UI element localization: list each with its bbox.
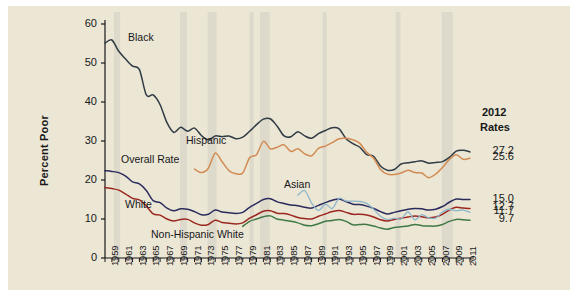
x-tick-label: 1971 [192, 246, 203, 266]
series-label-black: Black [128, 31, 154, 43]
x-tick-label: 1977 [233, 246, 244, 266]
x-tick-label: 1981 [261, 246, 272, 266]
series-label-hispanic: Hispanic [186, 134, 226, 146]
x-tick-label: 2005 [426, 246, 437, 266]
x-tick-label: 2001 [398, 246, 409, 266]
x-tick-label: 1995 [357, 246, 368, 266]
x-tick-label: 1979 [247, 246, 258, 266]
x-tick-label: 1967 [164, 246, 175, 266]
x-tick-label: 1965 [150, 246, 161, 266]
x-tick-label: 1985 [288, 246, 299, 266]
y-tick-label: 10 [65, 212, 97, 224]
x-tick-label: 1999 [384, 246, 395, 266]
y-tick-label: 20 [65, 173, 97, 185]
x-tick-label: 1983 [274, 246, 285, 266]
end-block-heading-year: 2012 [482, 106, 506, 118]
x-tick-label: 1975 [219, 246, 230, 266]
y-tick-label: 40 [65, 95, 97, 107]
x-tick-label: 2007 [440, 246, 451, 266]
y-tick-label: 50 [65, 56, 97, 68]
x-tick-label: 1963 [137, 246, 148, 266]
x-tick-label: 1993 [343, 246, 354, 266]
y-axis-title: Percent Poor [38, 115, 50, 186]
x-tick-label: 1987 [302, 246, 313, 266]
series-label-overall-rate: Overall Rate [121, 153, 179, 165]
x-tick-label: 2003 [412, 246, 423, 266]
x-tick-label: 1961 [123, 246, 134, 266]
x-tick-label: 1989 [316, 246, 327, 266]
recession-band [396, 12, 401, 258]
x-tick-label: 1991 [329, 246, 340, 266]
x-tick-label: 1997 [371, 246, 382, 266]
x-tick-label: 2009 [453, 246, 464, 266]
chart-figure: Percent Poor 0102030405060 1959196119631… [8, 6, 570, 290]
x-tick-label: 1959 [109, 246, 120, 266]
series-label-asian: Asian [284, 178, 310, 190]
y-tick-label: 0 [65, 251, 97, 263]
recession-band [260, 12, 270, 258]
end-value-hispanic: 25.6 [480, 150, 514, 162]
x-tick-label: 1973 [205, 246, 216, 266]
end-value-non-hispanic-white: 9.7 [480, 212, 514, 224]
x-tick-label: 2011 [467, 246, 478, 266]
series-label-non-hispanic-white: Non-Hispanic White [151, 228, 244, 240]
x-tick-label: 1969 [178, 246, 189, 266]
end-block-heading-rates: Rates [480, 121, 510, 133]
y-tick-label: 60 [65, 17, 97, 29]
series-line-hispanic [195, 138, 470, 178]
series-label-white: White [125, 198, 152, 210]
y-tick-label: 30 [65, 134, 97, 146]
series-line-black [105, 40, 470, 171]
